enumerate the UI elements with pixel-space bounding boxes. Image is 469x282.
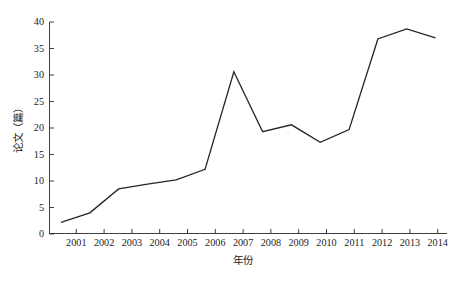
y-tick-label-20: 20 bbox=[34, 122, 44, 133]
y-tick-label-15: 15 bbox=[34, 149, 44, 160]
chart-figure: 0 5 10 15 20 25 30 35 40 2001 2002 2 bbox=[0, 0, 469, 282]
y-tick-label-30: 30 bbox=[34, 69, 44, 80]
y-tick-label-25: 25 bbox=[34, 96, 44, 107]
x-tick-label-2011: 2011 bbox=[344, 237, 364, 248]
x-tick-label-2004: 2004 bbox=[150, 237, 170, 248]
x-tick-label-2002: 2002 bbox=[94, 237, 114, 248]
x-tick-label-2003: 2003 bbox=[122, 237, 142, 248]
line-chart: 0 5 10 15 20 25 30 35 40 2001 2002 2 bbox=[0, 0, 469, 282]
y-tick-label-5: 5 bbox=[39, 202, 44, 213]
x-tick-label-2005: 2005 bbox=[177, 237, 197, 248]
x-tick-label-2001: 2001 bbox=[66, 237, 86, 248]
x-tick-label-2008: 2008 bbox=[261, 237, 281, 248]
y-tick-label-35: 35 bbox=[34, 43, 44, 54]
x-tick-label-2006: 2006 bbox=[205, 237, 225, 248]
y-tick-label-0: 0 bbox=[39, 228, 44, 239]
x-tick-label-2014: 2014 bbox=[428, 237, 448, 248]
x-tick-label-2007: 2007 bbox=[233, 237, 253, 248]
y-axis-title: 论文（篇） bbox=[12, 103, 24, 153]
x-tick-label-2009: 2009 bbox=[289, 237, 309, 248]
x-tick-label-2013: 2013 bbox=[400, 237, 420, 248]
y-tick-label-40: 40 bbox=[34, 16, 44, 27]
x-tick-label-2010: 2010 bbox=[316, 237, 336, 248]
x-tick-label-2012: 2012 bbox=[372, 237, 392, 248]
y-tick-label-10: 10 bbox=[34, 175, 44, 186]
x-axis-title: 年份 bbox=[233, 254, 254, 266]
